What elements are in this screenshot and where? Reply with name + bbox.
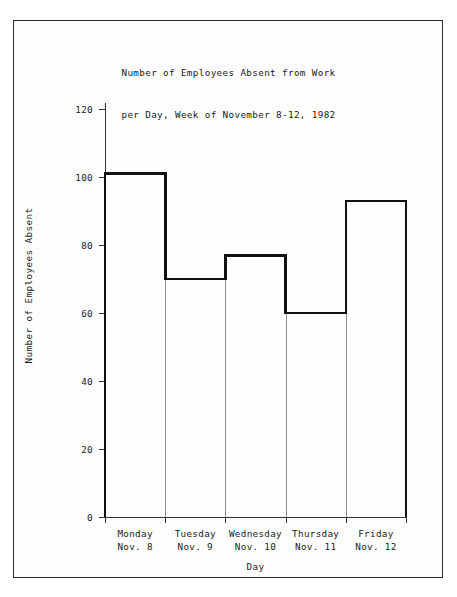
x-axis-title: Day — [105, 561, 406, 572]
x-tick-5 — [406, 517, 407, 523]
y-tick-label-text: 100 — [59, 173, 93, 182]
bar-separator-2 — [225, 255, 226, 517]
y-tick-label-40: 40 — [55, 377, 93, 386]
y-tick-label-text: 20 — [59, 445, 93, 454]
bar-top-1 — [165, 278, 225, 281]
y-tick-label-80: 80 — [55, 241, 93, 250]
bar-top-3 — [286, 312, 346, 315]
chart-title: Number of Employees Absent from Work per… — [0, 38, 457, 136]
bar-outer-riser-right — [405, 200, 408, 517]
y-tick-120 — [99, 109, 106, 110]
y-tick-label-text: 0 — [59, 513, 93, 522]
bar-riser-4 — [345, 200, 348, 315]
y-tick-label-60: 60 — [55, 309, 93, 318]
y-tick-label-text: 120 — [59, 105, 93, 114]
x-tick-label-day: Friday — [340, 527, 412, 540]
x-tick-1 — [165, 517, 166, 523]
x-tick-0 — [105, 517, 106, 523]
x-axis-line — [105, 517, 407, 518]
x-tick-2 — [225, 517, 226, 523]
y-tick-label-text: 40 — [59, 377, 93, 386]
y-tick-label-120: 120 — [55, 105, 93, 114]
chart-title-line-1: Number of Employees Absent from Work — [0, 66, 457, 80]
x-tick-label-date: Nov. 12 — [340, 540, 412, 553]
bar-top-0 — [105, 172, 165, 175]
y-axis-title: Number of Employees Absent — [23, 196, 34, 376]
y-tick-label-20: 20 — [55, 445, 93, 454]
y-tick-label-0: 0 — [55, 513, 93, 522]
x-tick-3 — [286, 517, 287, 523]
bar-riser-1 — [164, 172, 167, 280]
y-tick-label-text: 60 — [59, 309, 93, 318]
bar-top-4 — [346, 200, 406, 203]
x-tick-4 — [346, 517, 347, 523]
bar-top-2 — [225, 254, 285, 257]
y-tick-label-100: 100 — [55, 173, 93, 182]
x-tick-label-4: FridayNov. 12 — [340, 527, 412, 553]
bar-riser-2 — [224, 254, 227, 280]
bar-riser-3 — [284, 254, 287, 314]
bar-outer-riser-left — [104, 172, 107, 517]
y-tick-label-text: 80 — [59, 241, 93, 250]
